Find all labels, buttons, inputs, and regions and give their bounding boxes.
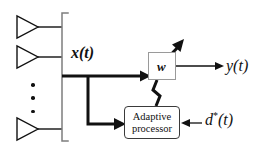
adaptive-array-diagram: w Adaptive processor x(t) y(t) d*(t) xyxy=(0,0,267,152)
antenna-element-2 xyxy=(17,46,62,68)
array-to-weight-path xyxy=(62,71,151,82)
input-signal-label: x(t) xyxy=(71,45,94,61)
weight-to-output-path xyxy=(176,62,224,70)
ellipsis-dot xyxy=(31,96,35,100)
adaptive-processor-label-line2: processor xyxy=(132,123,172,135)
output-signal-label: y(t) xyxy=(226,58,248,74)
reference-signal-arg: (t) xyxy=(218,111,233,128)
ellipsis-dot xyxy=(31,83,35,87)
adaptive-processor-block[interactable]: Adaptive processor xyxy=(124,106,180,139)
reference-to-processor-path xyxy=(181,119,202,127)
ellipsis-dot xyxy=(31,110,35,114)
antenna-element-3 xyxy=(17,118,62,140)
antenna-element-1 xyxy=(17,16,62,38)
vertical-ellipsis xyxy=(30,83,36,113)
adaptive-processor-label-line1: Adaptive xyxy=(133,111,172,123)
array-branch-to-processor-path xyxy=(88,76,126,130)
weight-to-processor-feedback-path xyxy=(153,80,160,106)
weight-block-label: w xyxy=(157,60,166,73)
reference-signal-base: d xyxy=(205,111,213,128)
reference-signal-label: d*(t) xyxy=(205,112,233,128)
